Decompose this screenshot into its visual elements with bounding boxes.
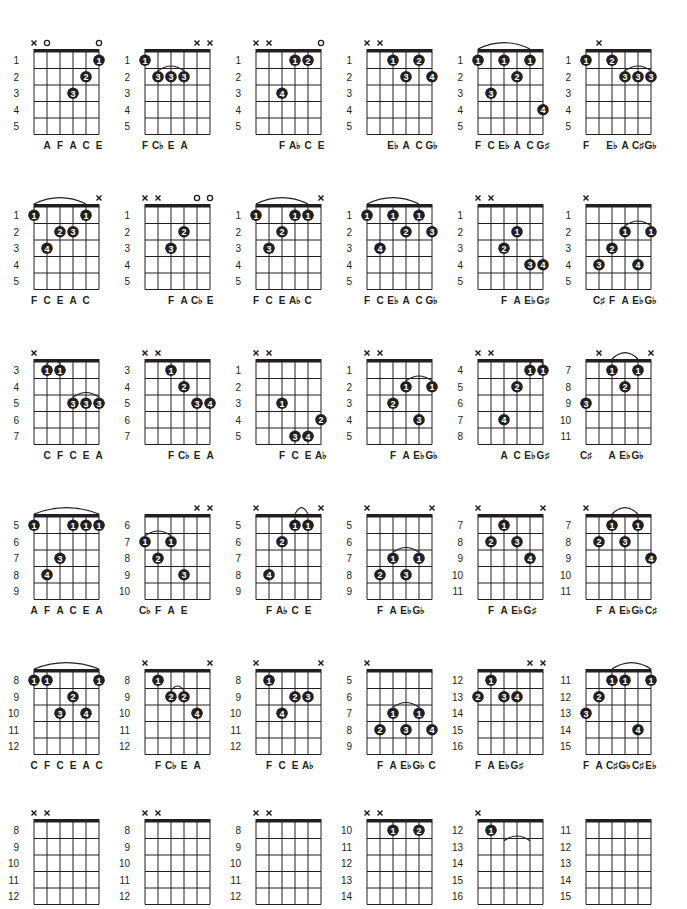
nut-bar [34,359,100,363]
finger-dot: 1 [67,519,79,531]
finger-dot: 3 [178,569,190,581]
chord-grid: 1234523FAC♭E [111,187,221,327]
svg-text:3: 3 [527,260,532,270]
finger-dot: 4 [537,259,549,271]
note-name: E♭ [387,140,399,151]
nut-bar [256,514,322,518]
nut-bar [586,669,652,673]
fret-number: 1 [13,55,19,66]
note-name: A [621,295,628,306]
fret-number: 2 [346,382,352,393]
chord-diagram: 123451234E♭ACG♭ [333,32,443,172]
fret-number: 7 [346,708,352,719]
finger-dot: 3 [511,536,523,548]
chord-diagram: 12131415161234FAE♭G♯ [444,652,554,792]
finger-dot: 3 [426,226,438,238]
finger-dot: 4 [41,242,53,254]
fret-number: 12 [341,858,353,869]
finger-dot: 1 [387,707,399,719]
note-name: A [82,760,89,771]
svg-text:3: 3 [583,709,588,719]
svg-text:1: 1 [44,366,49,376]
nut-bar [367,359,433,363]
fret-number: 10 [8,708,20,719]
note-name: F [609,295,615,306]
fret-number: 10 [119,858,131,869]
muted-string-icon [267,41,272,46]
svg-text:3: 3 [155,72,160,82]
barre-arc-icon [478,43,530,49]
svg-text:2: 2 [83,72,88,82]
note-name: G♭ [645,140,658,151]
fret-number: 12 [560,692,572,703]
note-name: C♯ [632,760,644,771]
note-name: E♭ [524,295,536,306]
fret-number: 1 [235,210,241,221]
fret-number: 1 [235,365,241,376]
svg-text:3: 3 [488,89,493,99]
svg-text:1: 1 [96,56,101,66]
svg-text:1: 1 [583,56,588,66]
svg-text:1: 1 [488,676,493,686]
note-name: A [487,760,494,771]
nut-bar [34,49,100,53]
chord-diagram: 12345111234FCE♭ACG♭ [333,187,443,327]
svg-text:3: 3 [622,72,627,82]
barre-arc-icon [34,198,86,204]
muted-string-icon [156,351,161,356]
chord-grid: 3456711333CFCEA [0,342,110,482]
note-name: C♯ [593,295,605,306]
fret-number: 11 [120,875,131,886]
note-name: G♯ [537,140,550,151]
finger-dot: 1 [387,209,399,221]
svg-text:1: 1 [142,56,147,66]
fret-number: 5 [346,121,352,132]
note-name: F [279,140,285,151]
svg-text:2: 2 [377,570,382,580]
chord-diagram: 89101112111234CFCEAC [0,652,110,792]
fret-number: 14 [452,858,464,869]
note-name: C [304,295,311,306]
note-name: G♭ [413,760,426,771]
note-name: A♭ [289,140,301,151]
chord-diagram: 12345124FA♭CE [222,32,332,172]
finger-dot: 2 [511,381,523,393]
muted-string-icon [319,661,324,666]
finger-dot: 3 [54,552,66,564]
muted-string-icon [430,506,435,511]
muted-string-icon [156,811,161,816]
finger-dot: 2 [67,691,79,703]
chord-grid: 12345123AFACE [0,32,110,172]
finger-dot: 4 [524,552,536,564]
muted-string-icon [45,811,50,816]
chord-grid: 1234512333FE♭AC♯G♭ [552,32,662,172]
svg-text:4: 4 [429,72,434,82]
nut-bar [478,669,544,673]
finger-dot: 3 [400,71,412,83]
muted-string-icon [378,351,383,356]
note-name: C♯ [632,140,644,151]
svg-text:1: 1 [622,676,627,686]
note-name: A♭ [302,760,314,771]
finger-dot: 1 [645,674,657,686]
note-name: G♭ [632,605,645,616]
fret-number: 8 [124,825,130,836]
fret-number: 13 [560,858,572,869]
fret-number: 9 [346,586,352,597]
svg-text:1: 1 [253,211,258,221]
svg-text:3: 3 [596,260,601,270]
chord-grid: 12131415161234FAE♭G♯ [444,652,554,792]
fret-number: 10 [119,586,131,597]
finger-dot: 1 [41,364,53,376]
svg-text:1: 1 [279,399,284,409]
nut-bar [478,204,544,208]
chord-diagram: 1112131415111234FAC♯G♭C♯E♭ [552,652,662,792]
svg-text:4: 4 [266,570,271,580]
fret-number: 7 [235,553,241,564]
note-name: F [57,450,63,461]
fret-number: 6 [457,398,463,409]
fret-number: 4 [235,415,241,426]
chord-grid: 78910111123C♯AE♭G♭ [552,342,662,482]
finger-dot: 1 [400,381,412,393]
